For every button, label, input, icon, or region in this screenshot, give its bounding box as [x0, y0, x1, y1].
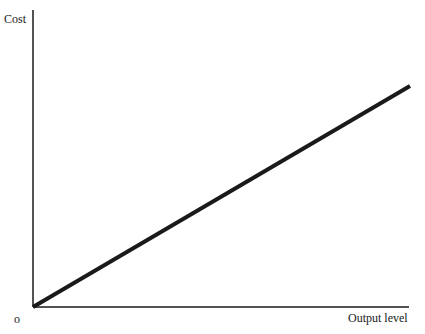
chart-plot [0, 0, 425, 334]
cost-line [33, 86, 410, 307]
origin-label: o [14, 312, 20, 326]
x-axis-label: Output level [348, 311, 408, 325]
y-axis-label: Cost [4, 12, 26, 26]
